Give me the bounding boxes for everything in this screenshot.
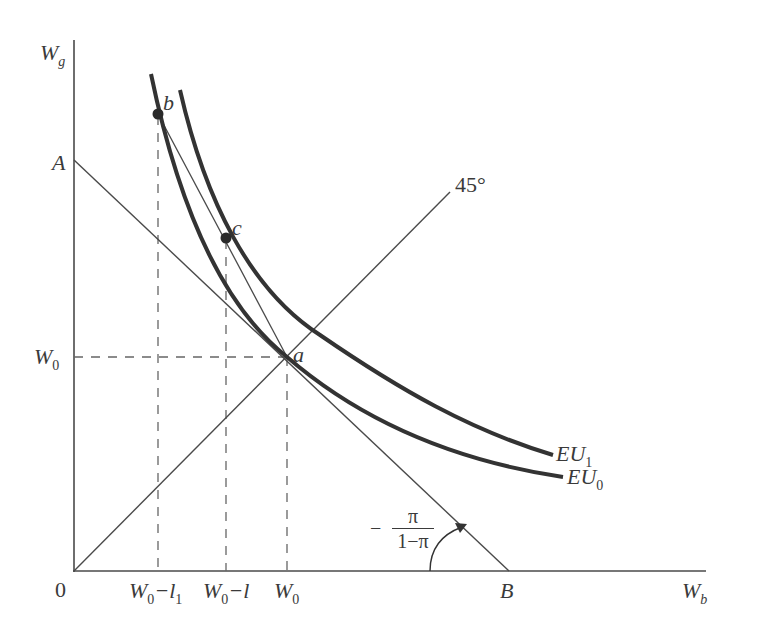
slope-sign: − [370,518,381,538]
curve-label-EU1: EU1 [556,443,592,465]
point-label-b: b [163,92,174,114]
slope-fraction: π 1−π [392,506,434,551]
curve-EU0 [151,74,563,477]
x-tick-W0-minus-l: W0−l [203,580,249,602]
arrow-head-icon [455,523,467,533]
x-tick-B: B [500,580,513,602]
point-c [221,233,232,244]
slope-denominator: 1−π [392,529,434,551]
point-b [153,109,164,120]
point-label-c: c [232,217,242,239]
x-tick-W0: W0 [274,580,299,602]
y-tick-A: A [52,152,65,174]
origin-label: 0 [55,579,66,601]
y-tick-W0: W0 [34,346,59,368]
slope-numerator: π [392,506,434,529]
x-tick-W0-minus-l1: W0−l1 [129,580,182,602]
curve-EU1 [180,90,553,455]
point-label-a: a [293,344,304,366]
budget-line-AB [74,160,509,571]
slope-arc [430,527,462,571]
x-axis-label: Wb [682,580,707,602]
diagram-canvas [0,0,758,638]
y-axis-label: Wg [40,42,65,64]
curve-label-EU0: EU0 [567,466,603,488]
label-45-degree: 45° [455,174,486,196]
